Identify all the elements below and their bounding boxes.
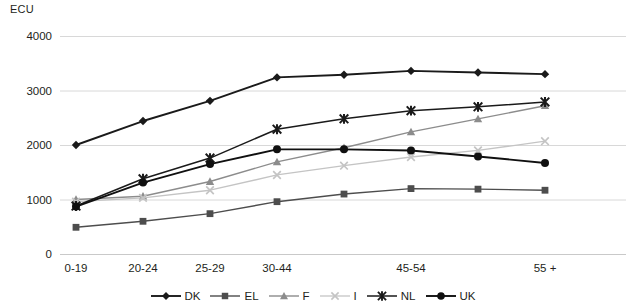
legend-symbol-nl-icon (367, 289, 397, 303)
y-axis-tick-3000: 3000 (26, 85, 52, 97)
y-axis-unit-label: ECU (10, 3, 34, 15)
data-point-marker-circle (474, 152, 482, 160)
data-point-marker-diamond (206, 97, 214, 105)
legend-item-nl[interactable]: NL (367, 289, 416, 303)
data-point-marker-diamond (273, 73, 281, 81)
x-axis-tick-30-44: 30-44 (262, 262, 291, 274)
data-point-marker-diamond (407, 67, 415, 75)
y-axis-tick-1000: 1000 (26, 194, 52, 206)
y-axis-tick-4000: 4000 (26, 30, 52, 42)
y-axis-tick-2000: 2000 (26, 139, 52, 151)
x-axis-tick-45-54: 45-54 (396, 262, 425, 274)
legend-label-el: EL (244, 290, 258, 302)
data-point-marker-square (475, 186, 482, 193)
legend-label-i: I (354, 290, 357, 302)
x-axis-tick-labels: 0-1920-2425-2930-4445-5455 + (0, 262, 626, 282)
data-point-marker-circle (206, 160, 214, 168)
data-point-marker-circle (340, 145, 348, 153)
x-axis-tick-20-24: 20-24 (128, 262, 157, 274)
chart-legend: DKELFINLUK (0, 286, 626, 306)
data-point-marker-square (542, 187, 549, 194)
data-series-layer (60, 36, 626, 254)
data-point-marker-square (207, 210, 214, 217)
data-point-marker-square (73, 224, 80, 231)
data-point-marker-square (140, 218, 147, 225)
legend-item-f[interactable]: F (269, 289, 310, 303)
legend-symbol-el-icon (210, 289, 240, 303)
x-axis-tick-0-19: 0-19 (64, 262, 87, 274)
legend-symbol-dk-icon (151, 289, 181, 303)
y-axis-tick-0: 0 (46, 248, 52, 260)
data-point-marker-circle (407, 146, 415, 154)
data-point-marker-diamond (139, 117, 147, 125)
data-point-marker-square (341, 191, 348, 198)
data-point-marker-diamond (474, 68, 482, 76)
y-axis-tick-labels: 01000200030004000 (0, 36, 52, 254)
legend-symbol-uk-icon (426, 289, 456, 303)
legend-label-dk: DK (185, 290, 201, 302)
data-point-marker-diamond (162, 292, 170, 300)
legend-label-nl: NL (401, 290, 416, 302)
x-axis-tick-25-29: 25-29 (195, 262, 224, 274)
data-point-marker-square (222, 293, 228, 299)
series-el (73, 185, 549, 230)
data-point-marker-circle (437, 292, 445, 300)
legend-item-dk[interactable]: DK (151, 289, 201, 303)
legend-item-uk[interactable]: UK (426, 289, 476, 303)
legend-symbol-i-icon (320, 289, 350, 303)
data-point-marker-circle (139, 179, 147, 187)
data-point-marker-diamond (541, 70, 549, 78)
data-point-marker-circle (273, 145, 281, 153)
data-point-marker-square (274, 198, 281, 205)
legend-label-f: F (303, 290, 310, 302)
legend-item-el[interactable]: EL (210, 289, 258, 303)
legend-item-i[interactable]: I (320, 289, 357, 303)
chart-container: ECU 01000200030004000 0-1920-2425-2930-4… (0, 0, 626, 307)
data-point-marker-circle (72, 203, 80, 211)
plot-area (60, 36, 626, 254)
data-point-marker-circle (541, 159, 549, 167)
data-point-marker-diamond (72, 141, 80, 149)
legend-label-uk: UK (460, 290, 476, 302)
data-point-marker-square (408, 185, 415, 192)
series-line-dk (76, 71, 545, 145)
data-point-marker-diamond (340, 70, 348, 78)
legend-symbol-f-icon (269, 289, 299, 303)
x-axis-tick-55-: 55 + (534, 262, 557, 274)
